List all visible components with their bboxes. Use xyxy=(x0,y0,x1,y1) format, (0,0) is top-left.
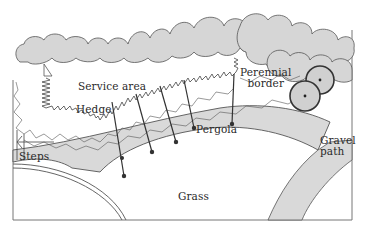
label-grass: Grass xyxy=(178,191,209,202)
grass-edge xyxy=(13,164,126,220)
label-service-area: Service area xyxy=(78,81,146,92)
label-gravel-path: Gravel path xyxy=(320,135,356,157)
label-perennial-border-line2: border xyxy=(240,78,291,89)
garden-plan-drawing xyxy=(0,0,380,246)
label-steps: Steps xyxy=(19,151,49,162)
label-perennial-border: Perennial border xyxy=(240,67,291,89)
label-pergola: Pergola xyxy=(196,124,237,135)
garden-plan-diagram: Service area Hedge Perennial border Perg… xyxy=(0,0,380,246)
label-hedge: Hedge xyxy=(76,104,112,115)
label-gravel-path-line2: path xyxy=(320,146,356,157)
pergola-band xyxy=(13,106,330,172)
